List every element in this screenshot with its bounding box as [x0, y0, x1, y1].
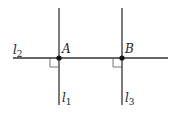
point-b-label: B [124, 42, 134, 56]
line-l1-label: l1 [62, 91, 72, 107]
point-a-label: A [61, 42, 71, 56]
perpendicular-lines-diagram: A B l2 l1 l3 [0, 0, 175, 113]
point-b [119, 55, 124, 60]
line-l2-label: l2 [13, 43, 23, 59]
point-a [56, 55, 61, 60]
line-l3-label: l3 [125, 91, 135, 107]
